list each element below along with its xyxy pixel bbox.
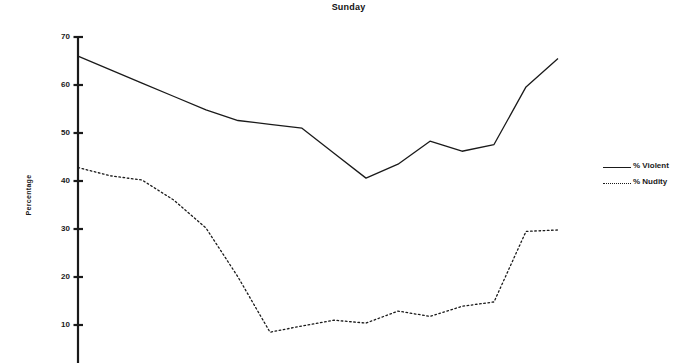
- chart-legend: % Violent % Nudity: [603, 160, 695, 192]
- legend-item-violent: % Violent: [603, 160, 695, 176]
- chart-figure: Sunday Percentage 70605040302010 % Viole…: [0, 0, 697, 363]
- legend-item-nudity: % Nudity: [603, 176, 695, 192]
- plot-area: [0, 0, 697, 363]
- series-line-nudity: [78, 168, 558, 333]
- series-line-violent: [78, 56, 558, 178]
- legend-label-nudity: % Nudity: [633, 177, 667, 186]
- legend-sample-nudity: [603, 183, 631, 186]
- legend-sample-violent: [603, 167, 631, 170]
- legend-label-violent: % Violent: [633, 161, 669, 170]
- series-group: [78, 56, 558, 332]
- y-axis-group: [74, 37, 84, 363]
